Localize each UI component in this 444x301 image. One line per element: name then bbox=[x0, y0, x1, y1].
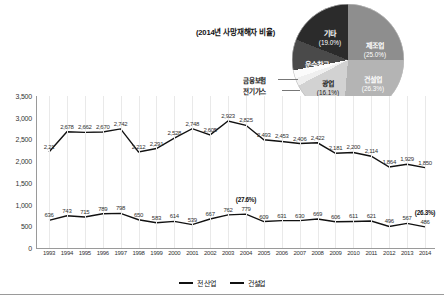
data-label: 486 bbox=[420, 219, 429, 225]
data-label: 650 bbox=[134, 212, 143, 218]
data-label: 789 bbox=[98, 206, 107, 212]
x-axis-tick: 2004 bbox=[240, 250, 252, 256]
gridline-vertical bbox=[192, 96, 193, 248]
data-label: 2,291 bbox=[150, 141, 164, 147]
gridline-vertical bbox=[335, 96, 336, 248]
data-label: 2,493 bbox=[257, 132, 271, 138]
chart-legend: 전 산업 건설업 bbox=[0, 276, 444, 290]
x-axis-tick: 1993 bbox=[43, 250, 55, 256]
data-label: 606 bbox=[331, 214, 340, 220]
legend-swatch-construction bbox=[230, 282, 244, 284]
x-axis-tick: 1994 bbox=[61, 250, 73, 256]
pie-chart-title: (2014년 사망재해자 비율) bbox=[196, 26, 275, 37]
x-axis-tick: 1998 bbox=[132, 250, 144, 256]
annotation-percentage: (26.3%) bbox=[415, 209, 435, 216]
y-axis-tick: 0 bbox=[28, 245, 32, 252]
data-label: 2,748 bbox=[185, 121, 199, 127]
data-label: 2,678 bbox=[60, 124, 74, 130]
gridline-vertical bbox=[318, 96, 319, 248]
x-axis-tick: 2001 bbox=[186, 250, 198, 256]
data-label: 779 bbox=[241, 206, 250, 212]
x-axis-tick: 2007 bbox=[294, 250, 306, 256]
x-axis-tick: 2014 bbox=[419, 250, 431, 256]
x-axis-tick: 2013 bbox=[401, 250, 413, 256]
data-label: 798 bbox=[116, 205, 125, 211]
pie-slice-label-construction: 건설업 (26.3%) bbox=[349, 76, 397, 93]
x-axis-tick: 1995 bbox=[79, 250, 91, 256]
gridline-vertical bbox=[407, 96, 408, 248]
gridline-vertical bbox=[121, 96, 122, 248]
legend-item-construction: 건설업 bbox=[230, 278, 265, 288]
pie-slice-label-mining: 광업 (16.1%) bbox=[308, 80, 348, 97]
leader-line-finance bbox=[278, 79, 298, 80]
pie-slice-label-transport-storage: 운수창고 bbox=[294, 61, 340, 70]
data-label: 496 bbox=[385, 218, 394, 224]
x-axis-tick: 1997 bbox=[115, 250, 127, 256]
data-label: 2,21 bbox=[44, 144, 54, 150]
data-label: 611 bbox=[349, 213, 358, 219]
data-label: 539 bbox=[188, 217, 197, 223]
data-label: 567 bbox=[403, 215, 412, 221]
series-lines bbox=[37, 96, 435, 248]
gridline-vertical bbox=[425, 96, 426, 248]
y-axis-tick: 1,500 bbox=[15, 179, 32, 186]
x-axis-tick: 2009 bbox=[329, 250, 341, 256]
gridline-vertical bbox=[139, 96, 140, 248]
x-axis-tick: 2005 bbox=[258, 250, 270, 256]
data-label: 1,929 bbox=[400, 156, 414, 162]
y-axis-tick: 3,500 bbox=[15, 93, 32, 100]
footer-divider bbox=[0, 294, 444, 295]
data-label: 2,742 bbox=[114, 121, 128, 127]
x-axis-tick: 2006 bbox=[276, 250, 288, 256]
gridline-vertical bbox=[156, 96, 157, 248]
y-axis-tick: 2,500 bbox=[15, 136, 32, 143]
data-label: 609 bbox=[259, 214, 268, 220]
data-label: 2,181 bbox=[329, 145, 343, 151]
y-axis-tick: 1,000 bbox=[15, 201, 32, 208]
gridline-vertical bbox=[282, 96, 283, 248]
legend-label-all-industries: 전 산업 bbox=[197, 278, 216, 288]
annotation-percentage: (27.6%) bbox=[236, 196, 256, 203]
x-axis-tick: 2011 bbox=[365, 250, 377, 256]
gridline-vertical bbox=[389, 96, 390, 248]
leader-line-electricity-gas bbox=[282, 90, 300, 91]
data-label: 2,825 bbox=[239, 117, 253, 123]
x-axis-tick: 2008 bbox=[311, 250, 323, 256]
gridline-vertical bbox=[174, 96, 175, 248]
data-label: 621 bbox=[367, 213, 376, 219]
data-label: 1,864 bbox=[382, 159, 396, 165]
gridline-vertical bbox=[353, 96, 354, 248]
gridline-vertical bbox=[371, 96, 372, 248]
data-label: 2,114 bbox=[365, 148, 378, 154]
data-label: 2,528 bbox=[168, 130, 182, 136]
x-axis-tick: 2010 bbox=[347, 250, 359, 256]
data-label: 2,406 bbox=[293, 136, 307, 142]
x-axis-tick: 1999 bbox=[150, 250, 162, 256]
data-label: 1,850 bbox=[418, 160, 432, 166]
data-label: 2,212 bbox=[132, 144, 146, 150]
data-label: 762 bbox=[223, 207, 232, 213]
gridline-vertical bbox=[67, 96, 68, 248]
x-axis-tick: 2003 bbox=[222, 250, 234, 256]
gridline-vertical bbox=[103, 96, 104, 248]
legend-label-construction: 건설업 bbox=[248, 278, 265, 288]
x-axis-tick: 1996 bbox=[97, 250, 109, 256]
data-label: 2,453 bbox=[275, 133, 289, 139]
data-label: 614 bbox=[170, 213, 179, 219]
gridline-vertical bbox=[85, 96, 86, 248]
legend-item-all-industries: 전 산업 bbox=[179, 278, 216, 288]
gridline-vertical bbox=[264, 96, 265, 248]
x-axis-tick: 2012 bbox=[383, 250, 395, 256]
data-label: 583 bbox=[152, 215, 161, 221]
data-label: 743 bbox=[62, 208, 71, 214]
y-axis-tick: 500 bbox=[21, 223, 32, 230]
data-label: 2,670 bbox=[96, 124, 110, 130]
data-label: 715 bbox=[80, 209, 89, 215]
gridline-vertical bbox=[300, 96, 301, 248]
data-label: 2,200 bbox=[347, 144, 361, 150]
data-label: 669 bbox=[313, 211, 322, 217]
x-axis-tick: 2000 bbox=[168, 250, 180, 256]
pie-slice-label-other: 기타 (19.0%) bbox=[310, 30, 350, 47]
pie-outside-label-electricity-gas: 전기가스 bbox=[243, 86, 266, 96]
gridline-vertical bbox=[210, 96, 211, 248]
